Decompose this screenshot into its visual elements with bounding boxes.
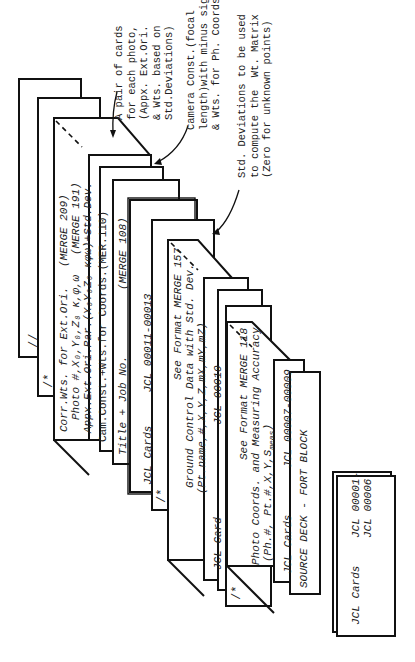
jcl-1-6-ref-2: JCL 00006 bbox=[362, 479, 374, 538]
annotation-camera-const: Camera Const.(focal length)with minus si… bbox=[185, 0, 223, 130]
corr-wts-line-2: Photo #,X₀,Y₀,Z₀ κ,φ,ω (MERGE 191) bbox=[70, 182, 82, 420]
jcl-11-13-label: JCL Cards JCL 00011-00013 bbox=[142, 294, 154, 485]
jcl-7-9-ref: JCL 00007-00009 bbox=[282, 369, 294, 468]
jcl-00010-ref: JCL 00010 bbox=[212, 365, 224, 424]
photo-coords-line-2: Photo Coords. and Measuring Accuracy bbox=[250, 327, 262, 565]
photo-coords-line-1: See Format MERGE 118 bbox=[238, 328, 250, 460]
corr-wts-line-1: Corr.Wts. for Ext.Ori. (MERGE 209) bbox=[58, 194, 70, 432]
corr-wts-line-3: Appx.Ext.Ori.Par.(X₀Y₀Z₀ κφω)+Std.Dev. bbox=[82, 182, 94, 433]
ground-control-line-2: Ground Control Data with Std. Dev. bbox=[184, 264, 196, 488]
ground-control-line-1: See Format MERGE 157 bbox=[172, 248, 184, 380]
double-slash-label: // bbox=[28, 334, 40, 348]
jcl-range-ref: JCL 00011-00013 bbox=[142, 294, 154, 393]
jcl-1-6-ref-1: JCL 00001- bbox=[350, 472, 362, 538]
jcl-10-label: JCL Card JCL 00010 bbox=[212, 365, 224, 570]
corr-wts-text: Corr.Wts. for Ext.Ori. bbox=[58, 287, 70, 432]
source-deck-label: SOURCE DECK - FORT BLOCK bbox=[298, 430, 310, 588]
jcl-cards-text: JCL Cards bbox=[142, 426, 154, 485]
photo-coords-params: (Ph.#, Pt.#,X,Y,S bbox=[262, 450, 274, 562]
jcl-1-6-label: JCL Cards bbox=[350, 566, 362, 625]
jcl-7-9-label: JCL Cards JCL 00007-00009 bbox=[282, 369, 294, 574]
slash-star-1-label: /* bbox=[43, 374, 55, 388]
merge-209-ref: (MERGE 209) bbox=[58, 194, 70, 267]
photo-params-text: Photo #,X₀,Y₀,Z₀ κ,φ,ω bbox=[70, 275, 82, 420]
annotation-std-deviations: Std. Deviations to be used to compute th… bbox=[236, 14, 274, 178]
cam-const-label: Cam.Const.+Wts.for Coords.(MER.110) bbox=[97, 211, 109, 442]
title-job-text: Title + Job No. bbox=[117, 356, 129, 455]
merge-108-ref: (MERGE 108) bbox=[117, 217, 129, 290]
slash-star-3-label: /* bbox=[231, 586, 243, 600]
merge-191-ref: (MERGE 191) bbox=[70, 182, 82, 255]
jcl-cards-7-9-text: JCL Cards bbox=[282, 515, 294, 574]
jcl-card-text: JCL Card bbox=[212, 517, 224, 570]
ground-control-line-3: (Pt.name,#,X,Y,Z,mX,mY,mZ) bbox=[196, 322, 208, 494]
slash-star-2-label: /* bbox=[156, 489, 168, 503]
meas-subscript: meas bbox=[267, 431, 276, 450]
photo-coords-line-3: (Ph.#, Pt.#,X,Y,Smeas) bbox=[262, 424, 278, 562]
annotation-pair-of-cards: A pair of cards for each photo, (Appx. E… bbox=[113, 25, 176, 120]
photo-coords-close: ) bbox=[262, 424, 274, 431]
title-job-label: Title + Job No. (MERGE 108) bbox=[117, 217, 129, 455]
